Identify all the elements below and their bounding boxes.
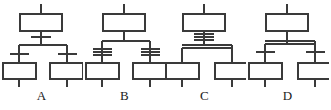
- step-box-top: [20, 14, 62, 31]
- figure-canvas: A: [0, 0, 331, 110]
- step-box-right: [298, 63, 329, 79]
- diagram-label-c: C: [163, 88, 246, 103]
- step-box-right: [133, 63, 166, 79]
- sfc-graphic-a: [0, 0, 83, 90]
- step-box-right: [50, 63, 83, 79]
- step-box-top: [183, 14, 225, 31]
- diagram-label-b: B: [83, 88, 166, 103]
- step-box-left: [3, 63, 36, 79]
- diagram-label-d: D: [246, 88, 329, 103]
- sfc-graphic-b: [83, 0, 166, 90]
- step-box-top: [103, 14, 145, 31]
- diagram-label-a: A: [0, 88, 83, 103]
- step-box-right: [215, 63, 246, 79]
- sfc-graphic-d: [246, 0, 329, 90]
- step-box-top: [266, 14, 308, 31]
- step-box-left: [86, 63, 119, 79]
- step-box-left: [249, 63, 282, 79]
- sfc-graphic-c: [163, 0, 246, 90]
- step-box-left: [166, 63, 199, 79]
